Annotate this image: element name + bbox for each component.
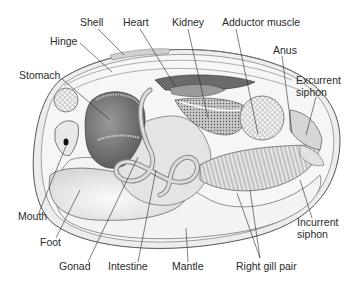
label-heart: Heart — [123, 16, 149, 28]
label-incurrent-line1: Incurrent — [297, 216, 338, 228]
label-gonad: Gonad — [59, 260, 91, 272]
anterior-adductor-muscle — [54, 88, 78, 112]
label-right-gill-pair: Right gill pair — [236, 260, 297, 272]
label-mantle: Mantle — [172, 260, 204, 272]
label-incurrent-siphon: Incurrent siphon — [297, 216, 338, 240]
posterior-adductor-muscle — [240, 96, 284, 140]
label-hinge: Hinge — [50, 35, 77, 47]
label-excurrent-siphon: Excurrent siphon — [296, 74, 341, 98]
label-shell: Shell — [80, 16, 103, 28]
label-intestine: Intestine — [108, 260, 148, 272]
label-incurrent-line2: siphon — [297, 228, 338, 240]
label-excurrent-line1: Excurrent — [296, 74, 341, 86]
label-adductor-muscle: Adductor muscle — [222, 16, 300, 28]
label-mouth: Mouth — [18, 210, 47, 222]
label-foot: Foot — [40, 236, 61, 248]
label-kidney: Kidney — [172, 16, 204, 28]
label-anus: Anus — [273, 44, 297, 56]
label-stomach: Stomach — [19, 69, 60, 81]
label-excurrent-line2: siphon — [296, 86, 341, 98]
